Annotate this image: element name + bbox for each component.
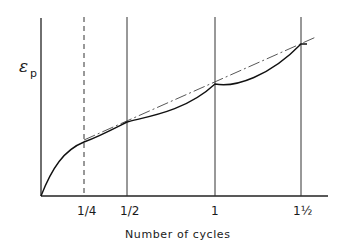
tick-quarter: 1/4 bbox=[77, 204, 96, 218]
x-axis-label: Number of cycles bbox=[125, 228, 231, 241]
strain-curve bbox=[41, 44, 307, 196]
trend-line bbox=[84, 37, 316, 140]
tick-one-half: 1½ bbox=[293, 204, 312, 218]
tick-one: 1 bbox=[211, 204, 219, 218]
y-axis-label: ε bbox=[19, 56, 28, 76]
strain-cycles-chart: ε p 1/4 1/2 1 1½ Number of cycles bbox=[0, 0, 346, 249]
tick-half: 1/2 bbox=[120, 204, 139, 218]
y-axis-label-subscript: p bbox=[30, 67, 37, 80]
